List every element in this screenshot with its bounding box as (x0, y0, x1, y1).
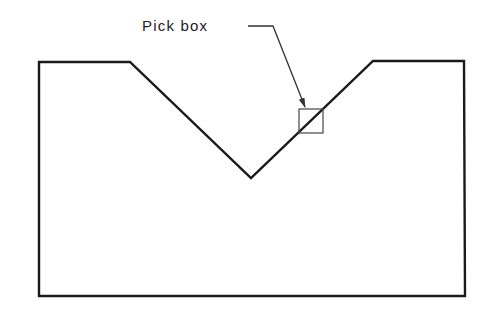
pick-box-label: Pick box (142, 18, 208, 33)
leader-arrow (248, 26, 305, 107)
drawing-svg (0, 0, 491, 314)
drawing-canvas: Pick box (0, 0, 491, 314)
v-notch-outline (39, 61, 465, 296)
